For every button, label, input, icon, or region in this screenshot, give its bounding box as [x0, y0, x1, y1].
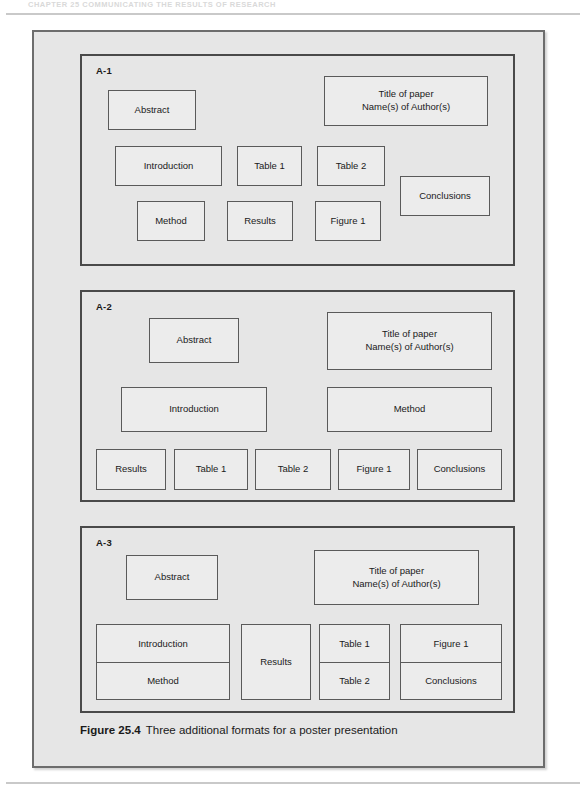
- a1-box-figure-1: Figure 1: [315, 201, 381, 241]
- figure-frame: A-1 Abstract Title of paper Name(s) of A…: [32, 30, 545, 768]
- a1-box-table-1: Table 1: [237, 146, 302, 186]
- a3-cell-method: Method: [97, 662, 229, 700]
- a1-box-conclusions: Conclusions: [400, 176, 490, 216]
- header-rule: [6, 13, 580, 15]
- figure-caption-number: Figure 25.4: [80, 724, 141, 736]
- running-head: CHAPTER 25 COMMUNICATING THE RESULTS OF …: [28, 0, 276, 9]
- a3-stack-introduction-method: Introduction Method: [96, 624, 230, 700]
- a3-cell-conclusions: Conclusions: [401, 662, 501, 700]
- a2-box-table-2: Table 2: [255, 449, 331, 490]
- a3-cell-table-2: Table 2: [320, 662, 389, 700]
- poster-format-panel-a1: A-1 Abstract Title of paper Name(s) of A…: [80, 54, 515, 266]
- a2-title-line1: Title of paper: [382, 328, 437, 341]
- panel-label-a2: A-2: [96, 301, 112, 312]
- panel-label-a3: A-3: [96, 537, 112, 548]
- a3-stack-table1-table2: Table 1 Table 2: [319, 624, 390, 700]
- a1-box-method: Method: [137, 201, 205, 241]
- a2-box-abstract: Abstract: [149, 318, 239, 363]
- a1-title-line1: Title of paper: [378, 88, 433, 101]
- poster-format-panel-a2: A-2 Abstract Title of paper Name(s) of A…: [80, 290, 515, 502]
- a1-title-line2: Name(s) of Author(s): [362, 101, 450, 114]
- a3-box-abstract: Abstract: [126, 555, 218, 600]
- a2-box-introduction: Introduction: [121, 387, 267, 432]
- a1-box-introduction: Introduction: [115, 146, 222, 186]
- a3-title-line2: Name(s) of Author(s): [352, 578, 440, 591]
- a1-box-results: Results: [227, 201, 293, 241]
- a3-cell-figure-1: Figure 1: [401, 625, 501, 662]
- a2-box-method: Method: [327, 387, 492, 432]
- a2-box-results: Results: [96, 449, 166, 490]
- a1-box-title: Title of paper Name(s) of Author(s): [324, 76, 488, 126]
- figure-caption: Figure 25.4Three additional formats for …: [80, 724, 520, 736]
- a1-box-table-2: Table 2: [317, 146, 385, 186]
- a2-box-table-1: Table 1: [174, 449, 248, 490]
- poster-format-panel-a3: A-3 Abstract Title of paper Name(s) of A…: [80, 526, 515, 713]
- figure-caption-text: Three additional formats for a poster pr…: [146, 724, 398, 736]
- a2-title-line2: Name(s) of Author(s): [365, 341, 453, 354]
- a1-box-abstract: Abstract: [108, 90, 196, 130]
- a2-box-title: Title of paper Name(s) of Author(s): [327, 312, 492, 370]
- a2-box-conclusions: Conclusions: [417, 449, 502, 490]
- a3-title-line1: Title of paper: [369, 565, 424, 578]
- a3-box-results: Results: [241, 624, 311, 700]
- a3-stack-figure1-conclusions: Figure 1 Conclusions: [400, 624, 502, 700]
- page-header: CHAPTER 25 COMMUNICATING THE RESULTS OF …: [0, 0, 586, 18]
- footer-rule: [6, 782, 580, 784]
- a2-box-figure-1: Figure 1: [338, 449, 410, 490]
- a3-box-title: Title of paper Name(s) of Author(s): [314, 550, 479, 605]
- panel-label-a1: A-1: [96, 65, 112, 76]
- a3-cell-introduction: Introduction: [97, 625, 229, 662]
- a3-cell-table-1: Table 1: [320, 625, 389, 662]
